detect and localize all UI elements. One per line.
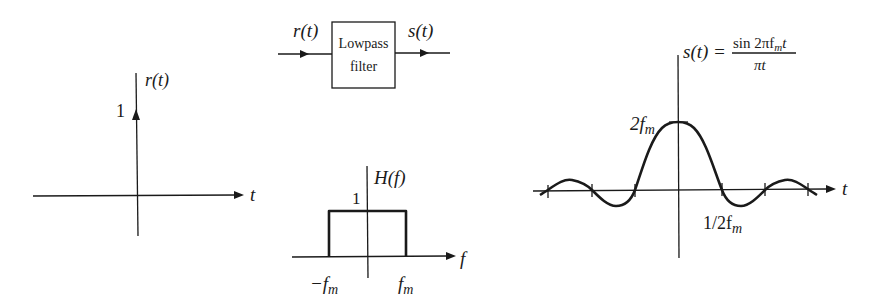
sinc-zero-label: 1/2fm xyxy=(703,213,742,236)
block-label-line2: filter xyxy=(350,59,378,74)
impulse-y-axis xyxy=(136,73,138,236)
hf-x-axis-arrow-icon xyxy=(446,252,456,260)
sinc-x-axis-arrow-icon xyxy=(826,185,836,193)
filter-response-plot: f 1 H(f) −fm fm xyxy=(292,166,468,297)
hf-x-label: f xyxy=(460,248,468,269)
hf-height-label: 1 xyxy=(352,189,361,208)
lowpass-filter-block xyxy=(332,22,395,88)
block-label-line1: Lowpass xyxy=(339,36,389,51)
sinc-peak-label: 2fm xyxy=(630,113,655,137)
impulse-y-label: r(t) xyxy=(145,70,169,91)
hf-left-edge-label: −fm xyxy=(310,273,338,297)
impulse-x-label: t xyxy=(250,184,256,205)
sinc-y-axis xyxy=(678,55,679,258)
x-axis-arrow-icon xyxy=(234,191,244,199)
impulse-plot: t 1 r(t) xyxy=(33,70,256,236)
input-arrow-icon xyxy=(300,50,309,58)
hf-y-label: H(f) xyxy=(373,167,406,189)
sinc-equation: s(t) = sin 2πfmt πt xyxy=(683,35,796,73)
sinc-x-label: t xyxy=(842,178,848,199)
signal-diagram: t 1 r(t) r(t) Lowpass filter s(t) f 1 H(… xyxy=(0,0,880,303)
svg-text:s(t) =: s(t) = xyxy=(683,41,726,63)
impulse-x-axis xyxy=(33,195,236,196)
impulse-arrow-icon xyxy=(132,109,140,120)
svg-text:πt: πt xyxy=(754,57,767,73)
input-signal-label: r(t) xyxy=(293,20,318,42)
sinc-x-axis xyxy=(533,189,828,191)
hf-right-edge-label: fm xyxy=(398,273,413,297)
sinc-plot: t 2fm 1/2fm s(t) = sin 2πfmt πt xyxy=(533,35,848,258)
output-arrow-icon xyxy=(420,49,429,57)
hf-y-axis xyxy=(367,166,368,278)
output-signal-label: s(t) xyxy=(408,20,433,42)
block-diagram: r(t) Lowpass filter s(t) xyxy=(278,20,450,88)
hf-x-axis xyxy=(292,256,448,257)
svg-text:sin 2πfmt: sin 2πfmt xyxy=(733,35,787,53)
impulse-height-label: 1 xyxy=(116,101,125,121)
